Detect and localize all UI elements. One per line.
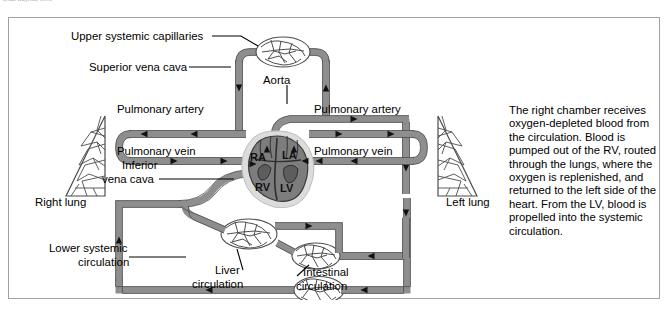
label-liver-line2: circulation — [192, 278, 243, 290]
lower-systemic-bottom-right — [341, 198, 407, 290]
label-intestinal-line2: circulation — [296, 280, 347, 292]
side-note-text: The right chamber receives oxygen-deplet… — [509, 104, 659, 238]
label-liver-line1: Liver — [215, 264, 240, 276]
upper-systemic-capillary-bed — [256, 37, 310, 67]
left-lung — [438, 116, 477, 196]
right-lung — [66, 116, 105, 196]
heart-label-la: LA — [282, 149, 297, 161]
label-pulmonary-vein-left: Pulmonary vein — [117, 145, 196, 157]
right-lung-capillary-connector — [412, 134, 424, 161]
figure-frame: RA LA RV LV Upper systemic capillaries — [8, 17, 660, 299]
label-upper-systemic-capillaries: Upper systemic capillaries — [71, 30, 204, 42]
figure-root: from Guyton, 1991 — [0, 0, 672, 310]
label-pulmonary-artery-left: Pulmonary artery — [117, 103, 204, 115]
label-aorta: Aorta — [263, 74, 291, 86]
label-inferior-vena-cava-line1: Inferior — [122, 159, 158, 171]
liver-capillary-bed — [221, 219, 277, 249]
heart-label-lv: LV — [280, 182, 294, 194]
label-pulmonary-artery-right: Pulmonary artery — [314, 103, 401, 115]
label-pulmonary-vein-right: Pulmonary vein — [314, 145, 393, 157]
heart-label-ra: RA — [250, 151, 266, 163]
cut-off-citation: from Guyton, 1991 — [3, 0, 53, 2]
label-superior-vena-cava: Superior vena cava — [89, 61, 188, 73]
ivc-lower-descending — [119, 204, 181, 281]
label-lower-systemic-line2: circulation — [78, 256, 129, 268]
heart: RA LA RV LV — [242, 131, 314, 208]
label-lower-systemic-line1: Lower systemic — [49, 242, 128, 254]
label-intestinal-line1: Intestinal — [303, 266, 349, 278]
label-left-lung: Left lung — [446, 196, 490, 208]
label-right-lung: Right lung — [35, 196, 86, 208]
heart-label-rv: RV — [255, 181, 271, 193]
leader-upper-capillaries — [212, 36, 258, 46]
label-inferior-vena-cava-line2: vena cava — [102, 173, 155, 185]
